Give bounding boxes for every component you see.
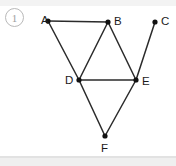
graph-vertex-label-b: B xyxy=(114,15,122,27)
graph-vertex-label-e: E xyxy=(142,75,150,87)
graph-edge-be xyxy=(108,22,136,80)
graph-vertex-b xyxy=(105,19,110,24)
graph-edge-ef xyxy=(105,80,136,136)
graph-vertex-label-f: F xyxy=(101,142,108,154)
graph-vertex-label-c: C xyxy=(161,15,169,27)
graph-vertex-d xyxy=(76,77,81,82)
graph-edge-df xyxy=(79,80,105,136)
graph-vertex-label-d: D xyxy=(65,74,73,86)
graph-edge-ab xyxy=(48,21,108,22)
graph-diagram: ABCDEF xyxy=(0,0,176,166)
graph-edge-ce xyxy=(136,22,155,80)
graph-vertex-e xyxy=(133,77,138,82)
graph-edge-ad xyxy=(48,21,79,80)
graph-vertex-c xyxy=(152,19,157,24)
diagram-page: 1 ABCDEF xyxy=(0,0,176,166)
graph-vertex-f xyxy=(102,133,107,138)
graph-vertex-label-a: A xyxy=(41,14,49,26)
graph-edge-bd xyxy=(79,22,108,80)
